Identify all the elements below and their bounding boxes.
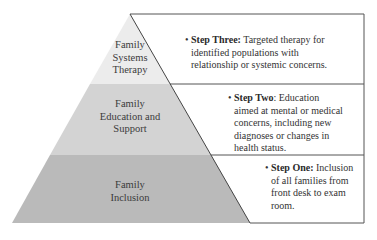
bullet-icon: • — [265, 162, 269, 173]
tier-label-bottom: Family Inclusion — [72, 179, 188, 204]
tier-label-line: Therapy — [92, 64, 168, 77]
tier-label-line: Family — [92, 39, 168, 52]
step-line: aimed at mental or medical — [228, 105, 362, 118]
tier-label-line: Education and — [72, 111, 188, 124]
step-line: Inclusion — [314, 162, 354, 173]
step-one-text: • Step One: Inclusion of all families fr… — [265, 162, 365, 212]
step-line: health status. — [228, 142, 362, 155]
step-line: Targeted therapy for — [241, 34, 325, 45]
step-line: relationship or systemic concerns. — [185, 59, 361, 72]
tier-label-line: Inclusion — [72, 192, 188, 205]
step-line: : Education — [273, 92, 319, 103]
tier-label-top: Family Systems Therapy — [92, 39, 168, 77]
step-line: identified populations with — [185, 47, 361, 60]
step-line: concerns, including new — [228, 117, 362, 130]
tier-label-middle: Family Education and Support — [72, 98, 188, 136]
tier-label-line: Systems — [92, 52, 168, 65]
step-line: room. — [265, 200, 365, 213]
step-title: Step One: — [271, 162, 314, 173]
step-three-text: • Step Three: Targeted therapy for ident… — [185, 34, 361, 72]
tier-label-line: Family — [72, 179, 188, 192]
step-title: Step Two — [234, 92, 273, 103]
step-title: Step Three: — [191, 34, 241, 45]
tier-label-line: Family — [72, 98, 188, 111]
tier-label-line: Support — [72, 123, 188, 136]
bullet-icon: • — [228, 92, 232, 103]
bullet-icon: • — [185, 34, 189, 45]
step-line: diagnoses or changes in — [228, 130, 362, 143]
step-line: front desk to exam — [265, 187, 365, 200]
step-line: of all families from — [265, 175, 365, 188]
step-two-text: • Step Two: Education aimed at mental or… — [228, 92, 362, 155]
